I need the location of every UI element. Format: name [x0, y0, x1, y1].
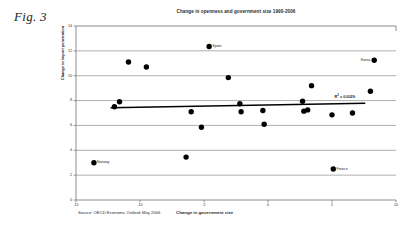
- y-axis-title: Change in import penetration: [60, 8, 65, 98]
- data-point: [368, 89, 373, 94]
- data-point: [331, 166, 336, 171]
- data-point: [261, 121, 266, 126]
- x-tick-label: 10: [388, 203, 404, 207]
- y-tick-label: 14: [0, 24, 72, 28]
- data-point: [237, 101, 242, 106]
- data-point: [112, 104, 117, 109]
- y-tick-label: 12: [0, 49, 72, 53]
- data-point: [300, 98, 305, 103]
- r-squared-annotation: R2 = 0.0029: [335, 93, 355, 99]
- data-point: [238, 109, 243, 114]
- x-axis-title: Change in government size: [176, 210, 233, 215]
- r-squared-value: = 0.0029: [339, 95, 355, 99]
- y-tick-label: 10: [0, 74, 72, 78]
- gridlines-group: [76, 26, 396, 175]
- data-point-label: Norway: [97, 160, 109, 164]
- data-point: [206, 44, 211, 49]
- data-point: [144, 64, 149, 69]
- data-point-label: Korea: [0, 58, 370, 62]
- y-tick-label: 6: [0, 123, 72, 127]
- x-tick-label: 0: [260, 203, 276, 207]
- x-tick-label: -5: [196, 203, 212, 207]
- y-tick-label: 4: [0, 148, 72, 152]
- data-point: [329, 112, 334, 117]
- x-tick-label: -15: [68, 203, 84, 207]
- data-point: [350, 110, 355, 115]
- data-point: [305, 107, 310, 112]
- axis-ticks-group: [74, 26, 397, 203]
- data-point: [189, 109, 194, 114]
- x-tick-label: 5: [324, 203, 340, 207]
- data-point: [183, 154, 188, 159]
- figure-container: Fig. 3 Change in openness and government…: [0, 0, 411, 233]
- data-point: [372, 57, 377, 62]
- axes-group: [76, 26, 396, 200]
- source-note: Source: OECD Economic Outlook May 2006: [78, 210, 160, 215]
- data-point: [226, 75, 231, 80]
- data-point: [117, 99, 122, 104]
- x-tick-label: -10: [132, 203, 148, 207]
- data-point: [260, 108, 265, 113]
- y-tick-label: 2: [0, 173, 72, 177]
- data-point-label: France: [336, 167, 347, 171]
- data-point-label: Spain: [212, 44, 221, 48]
- data-point: [199, 125, 204, 130]
- y-tick-label: 0: [0, 198, 72, 202]
- data-point: [309, 83, 314, 88]
- data-point: [91, 160, 96, 165]
- y-tick-label: 8: [0, 98, 72, 102]
